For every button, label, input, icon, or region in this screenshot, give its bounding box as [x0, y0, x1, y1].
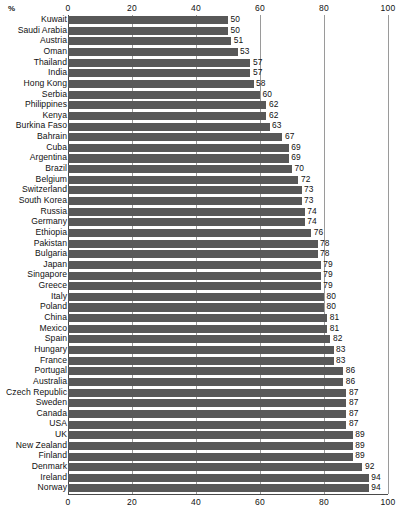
- bar: [68, 261, 321, 269]
- top-tick-label-80: 80: [319, 3, 329, 14]
- top-tick-label-40: 40: [191, 3, 201, 14]
- bar-row: South Korea73: [0, 196, 408, 207]
- category-label: Hong Kong: [24, 79, 67, 90]
- category-label: Ethiopia: [36, 228, 67, 239]
- bar-value-label: 94: [371, 483, 381, 494]
- bar: [68, 463, 362, 471]
- bar: [68, 80, 254, 88]
- bar: [68, 314, 327, 322]
- bar-row: Hungary83: [0, 345, 408, 356]
- bar-value-label: 58: [256, 79, 266, 90]
- category-label: Australia: [33, 377, 67, 388]
- category-label: Oman: [43, 47, 67, 58]
- bar: [68, 335, 330, 343]
- bottom-axis-tick-labels: 020406080100: [0, 497, 408, 509]
- category-label: Hungary: [34, 345, 67, 356]
- bottom-tick-label-20: 20: [127, 497, 137, 508]
- bottom-tick-label-40: 40: [191, 497, 201, 508]
- bar: [68, 112, 266, 120]
- bar: [68, 431, 353, 439]
- bar: [68, 101, 266, 109]
- bar: [68, 240, 318, 248]
- bottom-tick-label-100: 100: [381, 497, 396, 508]
- bottom-tick-label-0: 0: [66, 497, 71, 508]
- bar-value-label: 53: [240, 47, 250, 58]
- bar: [68, 123, 270, 131]
- bar: [68, 229, 311, 237]
- bar: [68, 303, 324, 311]
- bar-row: Australia86: [0, 377, 408, 388]
- bar: [68, 176, 298, 184]
- bar: [68, 282, 321, 290]
- bar: [68, 250, 318, 258]
- bar-row: Oman53: [0, 47, 408, 58]
- bar: [68, 186, 302, 194]
- bar: [68, 421, 346, 429]
- top-tick-label-20: 20: [127, 3, 137, 14]
- bar-value-label: 83: [336, 356, 346, 367]
- bar: [68, 367, 343, 375]
- bar: [68, 133, 282, 141]
- bar: [68, 293, 324, 301]
- bar-value-label: 63: [272, 121, 282, 132]
- bar-value-label: 76: [314, 228, 324, 239]
- bar: [68, 378, 343, 386]
- bar-row: Norway94: [0, 483, 408, 494]
- bar: [68, 272, 321, 280]
- bar: [68, 389, 346, 397]
- bar: [68, 16, 228, 24]
- top-tick-label-0: 0: [66, 3, 71, 14]
- bar: [68, 346, 334, 354]
- bar-value-label: 83: [336, 345, 346, 356]
- bar: [68, 453, 353, 461]
- bar: [68, 69, 250, 77]
- bar: [68, 410, 346, 418]
- bar: [68, 484, 369, 492]
- bar: [68, 399, 346, 407]
- bar: [68, 154, 289, 162]
- bar: [68, 325, 327, 333]
- bar-value-label: 73: [304, 196, 314, 207]
- bar: [68, 59, 250, 67]
- bar-value-label: 89: [355, 451, 365, 462]
- bar: [68, 37, 231, 45]
- bar-row: Ethiopia76: [0, 228, 408, 239]
- plot-area: Kuwait50Saudi Arabia50Austria51Oman53Tha…: [0, 15, 408, 494]
- bar: [68, 165, 292, 173]
- bar: [68, 197, 302, 205]
- bar: [68, 27, 228, 35]
- bottom-tick-label-80: 80: [319, 497, 329, 508]
- bar: [68, 91, 260, 99]
- bar-chart: % 020406080100 Kuwait50Saudi Arabia50Aus…: [0, 0, 408, 516]
- bar-value-label: 86: [346, 377, 356, 388]
- bar: [68, 208, 305, 216]
- top-tick-label-60: 60: [255, 3, 265, 14]
- bottom-axis-rule: [68, 494, 388, 495]
- bar: [68, 357, 334, 365]
- bar: [68, 474, 369, 482]
- top-tick-label-100: 100: [381, 3, 396, 14]
- bar: [68, 144, 289, 152]
- bar: [68, 442, 353, 450]
- category-label: Norway: [38, 483, 67, 494]
- bar-rows: Kuwait50Saudi Arabia50Austria51Oman53Tha…: [0, 15, 408, 494]
- bar-row: Hong Kong58: [0, 79, 408, 90]
- bar: [68, 48, 238, 56]
- bar: [68, 218, 305, 226]
- bottom-tick-label-60: 60: [255, 497, 265, 508]
- category-label: South Korea: [19, 196, 67, 207]
